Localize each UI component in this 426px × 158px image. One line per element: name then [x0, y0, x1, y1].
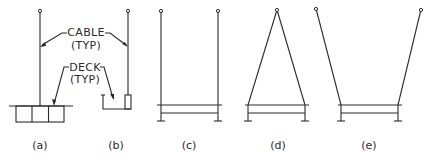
anchor-point-icon — [159, 9, 162, 12]
cable-callout-line1: CABLE — [67, 26, 104, 39]
panel-c — [157, 9, 222, 121]
cable-line — [278, 12, 306, 106]
deck-post — [125, 95, 131, 109]
panel-label-d: (d) — [270, 139, 286, 152]
cable-leader-right — [105, 33, 126, 45]
deck-leader-left — [54, 67, 69, 104]
panel-d — [244, 8, 309, 121]
panel-label-e: (e) — [361, 139, 376, 152]
panel-labels: (a) (b) (c) (d) (e) — [32, 139, 376, 152]
deck-box — [16, 106, 64, 122]
arrowhead-icon — [52, 99, 56, 106]
deck-callout-line2: (TYP) — [70, 73, 100, 86]
cable-callout-line2: (TYP) — [71, 39, 101, 52]
cable-leader-left — [42, 33, 67, 45]
cable-line — [248, 12, 277, 106]
cable-deck-diagram: CABLE (TYP) DECK (TYP) — [0, 0, 426, 158]
panel-label-c: (c) — [182, 139, 197, 152]
anchor-point-icon — [126, 9, 129, 12]
anchor-point-icon — [38, 9, 41, 12]
panel-b — [101, 9, 131, 109]
anchor-point-icon — [419, 8, 422, 11]
callouts: CABLE (TYP) DECK (TYP) — [40, 26, 128, 106]
arrowhead-icon — [110, 94, 114, 100]
panel-a — [9, 9, 73, 122]
cable-line — [398, 12, 421, 106]
anchor-point-icon — [314, 7, 317, 10]
arrowhead-icon — [40, 42, 46, 47]
deck-leader-right — [100, 67, 113, 98]
panel-label-b: (b) — [108, 139, 124, 152]
panel-label-a: (a) — [32, 139, 47, 152]
panel-e — [314, 7, 422, 121]
anchor-point-icon — [216, 9, 219, 12]
deck-channel — [103, 95, 131, 109]
anchor-point-icon — [275, 8, 278, 11]
cable-line — [317, 11, 342, 106]
